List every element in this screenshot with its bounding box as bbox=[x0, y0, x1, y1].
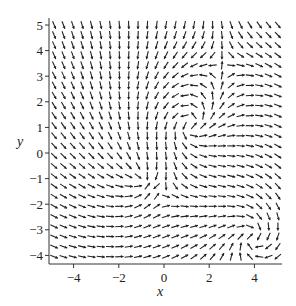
arrow-head-icon bbox=[121, 225, 124, 228]
arrow-head-icon bbox=[242, 134, 245, 137]
arrow-head-icon bbox=[251, 84, 254, 87]
arrow-head-icon bbox=[251, 104, 254, 107]
x-tick-label: −2 bbox=[112, 270, 126, 285]
arrow-head-icon bbox=[112, 225, 115, 228]
arrow-head-icon bbox=[146, 167, 149, 170]
arrow-head-icon bbox=[127, 47, 130, 50]
arrow-head-icon bbox=[164, 137, 167, 140]
y-tick-label: 2 bbox=[37, 94, 44, 109]
arrow-head-icon bbox=[102, 255, 105, 258]
arrow-head-icon bbox=[127, 67, 130, 70]
arrow-head-icon bbox=[242, 124, 245, 127]
arrow-head-icon bbox=[118, 77, 121, 80]
arrow-head-icon bbox=[118, 97, 121, 100]
arrow-head-icon bbox=[155, 147, 158, 150]
x-ticks: −4−2024 bbox=[67, 264, 258, 285]
arrow-head-icon bbox=[127, 57, 130, 60]
arrow-head-icon bbox=[127, 87, 130, 90]
arrow-head-icon bbox=[195, 205, 198, 208]
arrow-head-icon bbox=[130, 255, 133, 258]
arrow-head-icon bbox=[177, 205, 180, 208]
arrow-head-icon bbox=[221, 36, 224, 39]
arrow-head-icon bbox=[136, 107, 139, 110]
arrow-head-icon bbox=[205, 205, 208, 208]
arrow-head-icon bbox=[174, 137, 177, 140]
arrow-head-icon bbox=[146, 178, 149, 181]
arrow-head-icon bbox=[267, 228, 270, 231]
y-axis-label: y bbox=[15, 134, 24, 149]
arrow-head-icon bbox=[233, 144, 236, 147]
arrow-head-icon bbox=[276, 228, 279, 231]
x-tick-label: 4 bbox=[251, 270, 258, 285]
arrow-head-icon bbox=[165, 147, 168, 150]
arrow-head-icon bbox=[190, 84, 193, 87]
arrow-head-icon bbox=[165, 157, 168, 160]
arrow-head-icon bbox=[211, 27, 214, 30]
arrow-head-icon bbox=[251, 114, 254, 117]
y-tick-label: 5 bbox=[37, 18, 44, 33]
arrow-head-icon bbox=[164, 178, 167, 181]
arrow-head-icon bbox=[146, 127, 149, 130]
arrow-head-icon bbox=[118, 87, 121, 90]
y-tick-label: −4 bbox=[29, 248, 43, 263]
arrow-head-icon bbox=[214, 144, 217, 147]
y-tick-label: 3 bbox=[37, 69, 44, 84]
arrow-head-icon bbox=[223, 205, 226, 208]
arrow-head-icon bbox=[155, 26, 158, 29]
arrow-head-icon bbox=[165, 188, 168, 191]
arrow-head-icon bbox=[112, 245, 115, 248]
arrow-head-icon bbox=[251, 134, 254, 137]
arrow-head-icon bbox=[146, 26, 149, 29]
arrow-head-icon bbox=[146, 137, 149, 140]
arrow-head-icon bbox=[251, 124, 254, 127]
arrow-head-icon bbox=[127, 77, 130, 80]
arrow-head-icon bbox=[221, 61, 224, 64]
arrow-head-icon bbox=[137, 117, 140, 120]
arrow-head-icon bbox=[121, 255, 124, 258]
y-tick-label: 0 bbox=[37, 146, 44, 161]
arrow-head-icon bbox=[118, 47, 121, 50]
arrow-head-icon bbox=[121, 195, 124, 198]
arrow-head-icon bbox=[209, 64, 212, 67]
arrow-head-icon bbox=[127, 27, 130, 30]
arrow-head-icon bbox=[109, 57, 112, 60]
arrow-head-icon bbox=[102, 245, 105, 248]
arrow-head-icon bbox=[242, 145, 245, 148]
arrow-head-icon bbox=[118, 67, 121, 70]
arrow-head-icon bbox=[112, 235, 115, 238]
y-tick-label: −1 bbox=[29, 171, 43, 186]
arrow-head-icon bbox=[146, 147, 149, 150]
arrow-head-icon bbox=[118, 26, 121, 29]
y-tick-label: −3 bbox=[29, 222, 43, 237]
arrow-head-icon bbox=[127, 97, 130, 100]
y-tick-label: −2 bbox=[29, 197, 43, 212]
arrow-head-icon bbox=[242, 74, 245, 77]
arrow-head-icon bbox=[118, 37, 121, 40]
arrow-head-icon bbox=[242, 215, 245, 218]
arrow-head-icon bbox=[112, 215, 115, 218]
x-tick-label: 0 bbox=[161, 270, 168, 285]
arrow-head-icon bbox=[155, 137, 158, 140]
arrow-head-icon bbox=[130, 185, 133, 188]
x-axis-label: x bbox=[156, 284, 164, 299]
arrow-head-icon bbox=[223, 144, 226, 147]
arrow-head-icon bbox=[233, 215, 236, 218]
arrow-head-icon bbox=[233, 205, 236, 208]
arrow-head-icon bbox=[223, 155, 226, 158]
x-tick-label: 2 bbox=[206, 270, 213, 285]
arrow-head-icon bbox=[102, 235, 105, 238]
y-ticks: −4−3−2−1012345 bbox=[29, 18, 49, 263]
arrow-head-icon bbox=[111, 205, 114, 208]
arrow-head-icon bbox=[137, 27, 140, 30]
y-tick-label: 4 bbox=[37, 43, 44, 58]
arrow-head-icon bbox=[181, 104, 184, 107]
arrow-head-icon bbox=[118, 57, 121, 60]
vector-field-plot: −4−2024 −4−3−2−1012345 x y bbox=[0, 0, 296, 306]
arrow-head-icon bbox=[155, 168, 158, 171]
arrow-head-icon bbox=[202, 26, 205, 29]
arrow-head-icon bbox=[211, 91, 214, 94]
arrow-head-icon bbox=[127, 117, 130, 120]
field-arrows bbox=[50, 21, 281, 261]
arrow-head-icon bbox=[121, 245, 124, 248]
arrow-head-icon bbox=[214, 205, 217, 208]
